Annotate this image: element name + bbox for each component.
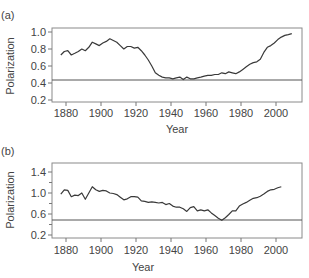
y-tick-label: 1.4 <box>31 166 46 178</box>
x-tick-label: 1940 <box>159 244 183 256</box>
panel-a-x-axis-label: Year <box>166 123 189 135</box>
panel-a-x-axis: 1880190019201940196019802000 <box>54 102 288 119</box>
figure: (a) 1.00.80.60.40.2 18801900192019401960… <box>0 0 309 278</box>
x-tick-label: 1920 <box>124 107 148 119</box>
y-tick-label: 1.0 <box>31 26 46 38</box>
panel-a-label: (a) <box>1 9 14 21</box>
x-tick-label: 2000 <box>264 107 288 119</box>
y-tick-label: 0.6 <box>31 60 46 72</box>
panel-b: (b) 1.41.00.60.2 18801900192019401960198… <box>1 145 302 273</box>
panel-a-y-axis: 1.00.80.60.40.2 <box>31 26 52 106</box>
panel-a-series-line <box>61 34 292 80</box>
panel-a-frame <box>52 28 302 102</box>
x-tick-label: 1960 <box>194 107 218 119</box>
panel-b-x-axis: 1880190019201940196019802000 <box>54 238 288 256</box>
x-tick-label: 1940 <box>159 107 183 119</box>
x-tick-label: 1900 <box>89 107 113 119</box>
y-tick-label: 0.6 <box>31 208 46 220</box>
panel-b-x-axis-label: Year <box>132 261 155 273</box>
x-tick-label: 1900 <box>89 244 113 256</box>
x-tick-label: 1920 <box>124 244 148 256</box>
panel-b-label: (b) <box>1 145 14 157</box>
panel-b-frame <box>52 163 302 238</box>
x-tick-label: 1960 <box>194 244 218 256</box>
x-tick-label: 2000 <box>264 244 288 256</box>
panel-a: (a) 1.00.80.60.40.2 18801900192019401960… <box>1 9 302 135</box>
x-tick-label: 1980 <box>229 244 253 256</box>
panel-b-y-axis: 1.41.00.60.2 <box>31 166 52 241</box>
x-tick-label: 1880 <box>54 107 78 119</box>
x-tick-label: 1880 <box>54 244 78 256</box>
panel-a-y-axis-label: Polarization <box>4 37 16 94</box>
x-tick-label: 1980 <box>229 107 253 119</box>
y-tick-label: 0.2 <box>31 229 46 241</box>
panel-b-y-axis-label: Polarization <box>4 171 16 228</box>
y-tick-label: 0.4 <box>31 77 46 89</box>
y-tick-label: 1.0 <box>31 187 46 199</box>
y-tick-label: 0.8 <box>31 43 46 55</box>
y-tick-label: 0.2 <box>31 94 46 106</box>
panel-b-series-line <box>61 187 281 221</box>
